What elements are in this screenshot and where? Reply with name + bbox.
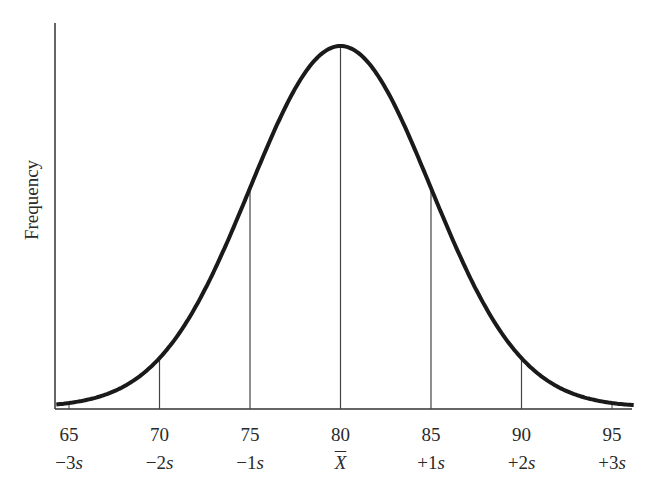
y-axis-label: Frequency <box>21 160 43 240</box>
sd-label: +2s <box>492 452 552 474</box>
sd-marker-lines <box>69 48 612 409</box>
x-tick-label: 80 <box>311 424 371 446</box>
x-tick-label: 70 <box>130 424 190 446</box>
x-tick-label: 85 <box>401 424 461 446</box>
sd-label: −1s <box>220 452 280 474</box>
x-tick-label: 65 <box>39 424 99 446</box>
x-tick-label: 95 <box>582 424 642 446</box>
sd-label: −2s <box>130 452 190 474</box>
normal-curve <box>56 46 633 405</box>
sd-label: X <box>311 452 371 474</box>
sd-label: +3s <box>582 452 642 474</box>
x-tick-label: 75 <box>220 424 280 446</box>
x-tick-label: 90 <box>492 424 552 446</box>
sd-label: +1s <box>401 452 461 474</box>
sd-label: −3s <box>39 452 99 474</box>
normal-curve-chart <box>0 0 658 494</box>
